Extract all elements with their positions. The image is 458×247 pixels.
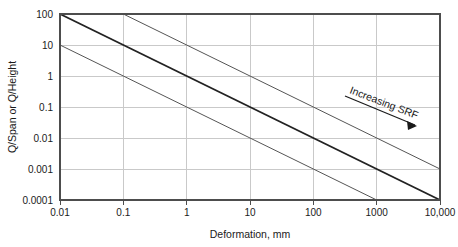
x-tick-label-10: 10 bbox=[244, 207, 256, 218]
y-tick-label-100: 100 bbox=[36, 9, 53, 20]
x-tick-label-1000: 1000 bbox=[366, 207, 389, 218]
x-tick-label-100: 100 bbox=[305, 207, 322, 218]
series-lower-bound-line bbox=[60, 45, 377, 200]
x-axis-title: Deformation, mm bbox=[210, 228, 291, 240]
chart-container: Increasing SRF 100 10 1 0.1 0.01 0.001 0… bbox=[0, 0, 458, 247]
x-tick-label-0.01: 0.01 bbox=[50, 207, 70, 218]
x-tick-labels: 0.01 0.1 1 10 100 1000 10,000 bbox=[50, 207, 455, 218]
x-tick-label-0.1: 0.1 bbox=[116, 207, 130, 218]
y-tick-labels: 100 10 1 0.1 0.01 0.001 0.0001 bbox=[22, 9, 53, 206]
x-tick-label-1: 1 bbox=[184, 207, 190, 218]
y-tick-label-10: 10 bbox=[42, 40, 54, 51]
y-tick-label-1: 1 bbox=[47, 71, 53, 82]
x-tick-label-10000: 10,000 bbox=[425, 207, 456, 218]
increasing-srf-arrowhead bbox=[407, 121, 417, 130]
y-tick-label-0.001: 0.001 bbox=[28, 164, 53, 175]
y-axis-title: Q/Span or Q/Height bbox=[6, 61, 18, 153]
series-upper-bound-line bbox=[123, 14, 440, 169]
y-tick-label-0.01: 0.01 bbox=[34, 133, 54, 144]
y-tick-label-0.0001: 0.0001 bbox=[22, 195, 53, 206]
x-tick-marks bbox=[60, 200, 440, 205]
log-log-chart: Increasing SRF 100 10 1 0.1 0.01 0.001 0… bbox=[0, 0, 458, 247]
y-tick-label-0.1: 0.1 bbox=[39, 102, 53, 113]
